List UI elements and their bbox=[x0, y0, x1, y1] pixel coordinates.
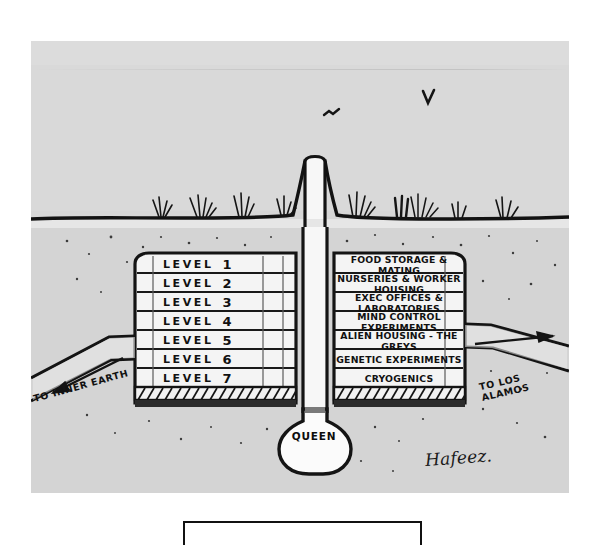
level-use-label: FOOD STORAGE & MATING bbox=[335, 256, 463, 273]
level-use-label: GENETIC EXPERIMENTS bbox=[335, 351, 463, 368]
level-use-label: NURSERIES & WORKER HOUSING bbox=[335, 275, 463, 292]
level-word: LEVEL bbox=[163, 372, 214, 385]
left-base-shadow bbox=[135, 400, 296, 407]
level-number: 2 bbox=[223, 276, 232, 291]
cartoon-illustration: LEVEL 1 LEVEL 2 LEVEL 3 LEVEL 4 LEVEL 5 … bbox=[31, 41, 569, 493]
level-row-label: LEVEL 7 bbox=[163, 370, 283, 387]
ground-surface-line bbox=[31, 161, 569, 219]
level-number: 1 bbox=[223, 257, 232, 272]
core-shaft-fill bbox=[303, 227, 327, 409]
level-row-label: LEVEL 1 bbox=[163, 256, 283, 273]
bird-v-icon bbox=[423, 90, 434, 103]
level-row-label: LEVEL 3 bbox=[163, 294, 283, 311]
level-row-label: LEVEL 6 bbox=[163, 351, 283, 368]
right-base-shadow bbox=[334, 400, 465, 407]
surface-shaft-fill bbox=[305, 161, 325, 219]
ink-linework bbox=[31, 41, 569, 493]
level-use-label: EXEC OFFICES & LABORATORIES bbox=[335, 294, 463, 311]
level-word: LEVEL bbox=[163, 315, 214, 328]
level-number: 3 bbox=[223, 295, 232, 310]
queen-stem-shadow bbox=[305, 407, 325, 413]
birds bbox=[324, 90, 434, 115]
level-row-label: LEVEL 4 bbox=[163, 313, 283, 330]
level-use-label: ALIEN HOUSING - THE GREYS bbox=[335, 332, 463, 349]
level-word: LEVEL bbox=[163, 334, 214, 347]
level-number: 6 bbox=[223, 352, 232, 367]
level-word: LEVEL bbox=[163, 353, 214, 366]
level-word: LEVEL bbox=[163, 277, 214, 290]
queen-chamber-label: QUEEN bbox=[280, 430, 348, 442]
level-row-label: LEVEL 2 bbox=[163, 275, 283, 292]
level-use-label: CRYOGENICS bbox=[335, 370, 463, 387]
level-number: 7 bbox=[223, 371, 232, 386]
level-use-label: MIND CONTROL EXPERIMENTS bbox=[335, 313, 463, 330]
bird-gull-icon bbox=[324, 109, 339, 115]
level-number: 4 bbox=[223, 314, 232, 329]
caption-box bbox=[183, 521, 422, 545]
level-word: LEVEL bbox=[163, 296, 214, 309]
surface-shaft-cap bbox=[305, 157, 325, 162]
level-word: LEVEL bbox=[163, 258, 214, 271]
level-row-label: LEVEL 5 bbox=[163, 332, 283, 349]
level-number: 5 bbox=[223, 333, 232, 348]
